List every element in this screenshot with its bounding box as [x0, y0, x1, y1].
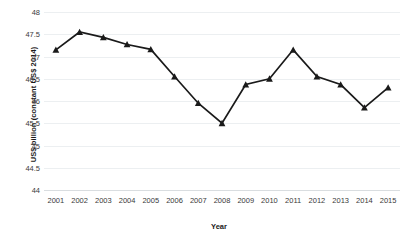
- x-tick-label: 2015: [371, 196, 405, 205]
- x-axis-tick-labels: 2001200220032004200520062007200820092010…: [44, 196, 400, 210]
- y-axis-tick-labels: 4444.54545.54646.54747.548: [0, 12, 40, 190]
- data-series-svg: [44, 12, 400, 190]
- y-tick-label: 47: [2, 52, 40, 61]
- y-tick-label: 46.5: [2, 74, 40, 83]
- series-line: [56, 32, 388, 123]
- plot-area: [44, 12, 400, 190]
- y-tick-label: 45.5: [2, 119, 40, 128]
- line-chart-figure: US$ billion (constant US$ 2014) 4444.545…: [0, 0, 408, 238]
- y-tick-label: 48: [2, 8, 40, 17]
- data-point-marker: [290, 46, 297, 52]
- series-markers: [52, 29, 391, 127]
- y-tick-label: 45: [2, 141, 40, 150]
- y-tick-label: 44: [2, 186, 40, 195]
- gridline: [44, 190, 400, 191]
- y-tick-label: 44.5: [2, 163, 40, 172]
- y-tick-label: 46: [2, 97, 40, 106]
- data-point-marker: [385, 84, 392, 90]
- x-axis-title: Year: [38, 222, 400, 231]
- y-tick-label: 47.5: [2, 30, 40, 39]
